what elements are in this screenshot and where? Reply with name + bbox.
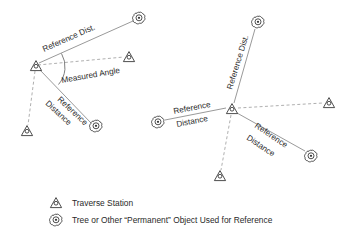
reference-tree-west [152,116,164,128]
label-reference-dist-north: Reference Dist. [225,34,250,91]
traverse-station-south-right [214,171,225,181]
triangle-station-icon [50,198,61,208]
traverse-leg-center-southwest [28,71,35,125]
label-measured-angle: Measured Angle [61,66,121,85]
reference-tree-north [252,16,264,28]
tree-reference-icon [50,214,62,226]
left-diagram-group: Reference Dist. Measured Angle Reference… [21,12,145,135]
legend: Traverse Station Tree or Other “Permanen… [50,198,273,226]
reference-tree-southeast [305,150,317,162]
surveying-reference-tie-figure: Reference Dist. Measured Angle Reference… [0,0,352,235]
right-diagram-group: Reference Dist. Reference Distance Refer… [152,16,335,180]
traverse-leg-center-south-right [221,115,231,170]
legend-label-tree-reference: Tree or Other “Permanent” Object Used fo… [72,215,273,225]
traverse-station-center-right [226,104,237,114]
label-distance-west: Distance [176,114,209,129]
reference-tree-lower-right [90,120,102,132]
legend-label-traverse-station: Traverse Station [72,198,133,208]
traverse-leg-center-east-right [238,103,323,108]
traverse-station-east-right [323,98,334,108]
legend-item-traverse-station: Traverse Station [50,198,133,208]
reference-tree-upper-right [133,12,145,24]
legend-item-tree-reference: Tree or Other “Permanent” Object Used fo… [50,214,273,226]
label-reference-dist-left-upper: Reference Dist. [41,23,96,54]
traverse-station-east-left [123,52,134,62]
diagram-canvas: Reference Dist. Measured Angle Reference… [0,0,352,235]
traverse-station-southwest-left [21,126,32,136]
